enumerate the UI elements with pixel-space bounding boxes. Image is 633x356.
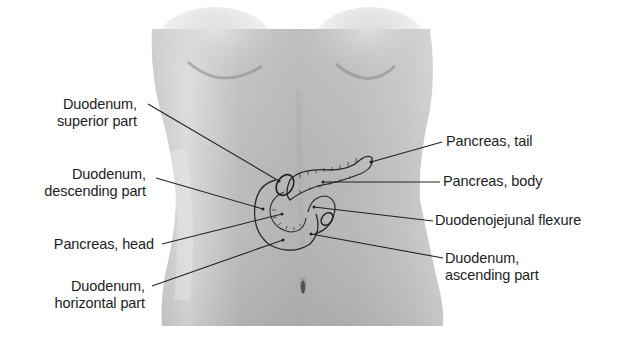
label-duodenum-descending: Duodenum, descending part	[44, 166, 146, 200]
label-duodenum-ascending: Duodenum, ascending part	[445, 250, 539, 284]
label-duodenojejunal-flexure: Duodenojejunal flexure	[435, 212, 581, 229]
right-breast	[312, 7, 428, 83]
left-breast	[155, 7, 275, 83]
label-duodenum-horizontal: Duodenum, horizontal part	[55, 278, 145, 312]
anatomy-figure: Duodenum, superior part Duodenum, descen…	[0, 0, 633, 356]
label-pancreas-head: Pancreas, head	[54, 236, 154, 253]
label-pancreas-body: Pancreas, body	[443, 173, 542, 190]
label-pancreas-tail: Pancreas, tail	[446, 133, 532, 150]
label-duodenum-superior: Duodenum, superior part	[57, 96, 137, 130]
